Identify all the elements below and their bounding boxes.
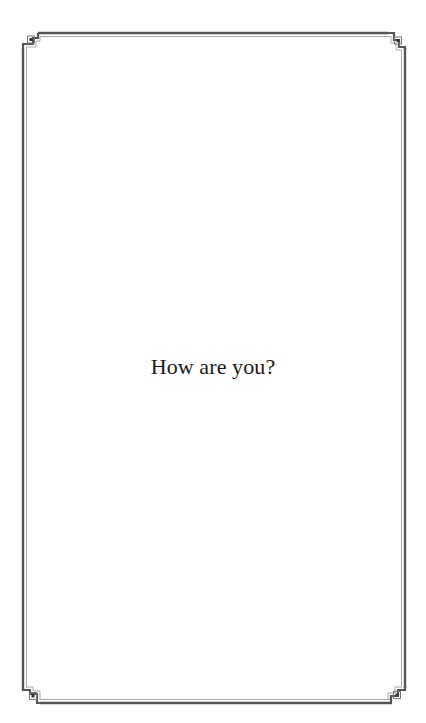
corner-ornament-top-right (387, 33, 405, 52)
border-top (38, 33, 389, 37)
border-bottom (40, 700, 392, 704)
corner-ornament-bottom-right (385, 685, 405, 703)
corner-ornament-bottom-left (23, 687, 43, 703)
border-outer-line (37, 33, 401, 45)
corner-ornament-top-left (23, 33, 40, 51)
card-message: How are you? (0, 354, 426, 380)
greeting-card: How are you? (0, 0, 426, 723)
